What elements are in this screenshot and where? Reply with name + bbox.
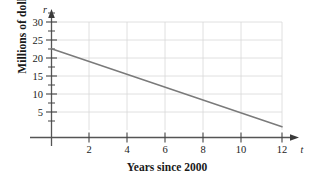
x-tick-label: 10 [236, 144, 247, 155]
y-tick-label: 15 [33, 71, 44, 82]
y-tick-label: 25 [33, 35, 44, 46]
y-axis-title: Millions of dollars [14, 0, 30, 88]
x-axis-title: Years since 2000 [51, 157, 283, 175]
y-tick-labels: 30 25 20 15 10 5 [33, 17, 44, 118]
y-tick-label: 10 [33, 89, 44, 100]
data-series-revenue [52, 49, 283, 127]
y-axis-title-text: Millions of dollars [16, 0, 28, 74]
x-tick-label: 2 [86, 144, 91, 155]
x-axis-title-text: Years since 2000 [127, 161, 208, 173]
y-tick-label: 5 [38, 107, 43, 118]
y-axis-variable-label: r [43, 4, 47, 15]
x-axis-variable-label: t [301, 144, 304, 155]
x-tick-label: 6 [162, 144, 167, 155]
x-tick-label: 12 [277, 144, 288, 155]
chart-plot-area: 30 25 20 15 10 5 2 4 6 8 10 12 r t [0, 0, 319, 180]
y-axis [48, 9, 55, 146]
x-tick-labels: 2 4 6 8 10 12 [86, 144, 287, 155]
x-tick-label: 8 [200, 144, 205, 155]
grid-horizontal [51, 22, 282, 112]
y-tick-label: 30 [33, 17, 44, 28]
chart-figure: 30 25 20 15 10 5 2 4 6 8 10 12 r t Milli… [0, 0, 319, 180]
y-tick-label: 20 [33, 53, 44, 64]
x-tick-label: 4 [124, 144, 130, 155]
